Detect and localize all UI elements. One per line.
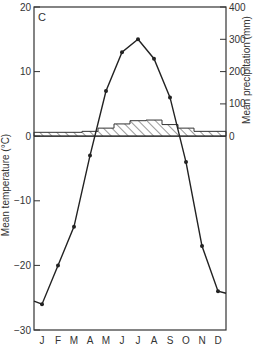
- left-axis-title: Mean temperature (°C): [0, 134, 11, 236]
- month-label: M: [102, 335, 110, 346]
- left-tick-label: 20: [20, 2, 32, 13]
- temperature-point: [120, 50, 124, 54]
- month-label: D: [214, 335, 221, 346]
- temperature-point: [88, 154, 92, 158]
- month-label: J: [40, 335, 45, 346]
- right-axis-title: Mean precipitation (mm): [241, 16, 252, 124]
- left-tick-label: −20: [14, 260, 31, 271]
- left-axis-ticks: 20100−10−20−30: [14, 2, 40, 336]
- month-label: J: [136, 335, 141, 346]
- temperature-point: [184, 160, 188, 164]
- left-tick-label: −30: [14, 325, 31, 336]
- temperature-point: [136, 37, 140, 41]
- month-label: M: [70, 335, 78, 346]
- temperature-point: [168, 95, 172, 99]
- temperature-line: [34, 39, 226, 304]
- climate-chart: 20100−10−20−30 4003002001000 JFMAMJJASON…: [0, 0, 256, 349]
- month-label: N: [198, 335, 205, 346]
- temperature-point: [152, 57, 156, 61]
- temperature-point: [216, 289, 220, 293]
- temperature-point: [40, 302, 44, 306]
- temperature-point: [200, 244, 204, 248]
- panel-label: C: [38, 11, 46, 23]
- temperature-point: [56, 263, 60, 267]
- month-label: J: [120, 335, 125, 346]
- month-labels: JFMAMJJASOND: [40, 335, 222, 346]
- left-tick-label: 0: [25, 131, 31, 142]
- month-label: F: [55, 335, 61, 346]
- month-label: A: [87, 335, 94, 346]
- left-tick-label: −10: [14, 195, 31, 206]
- month-label: S: [167, 335, 174, 346]
- plot-frame: [34, 7, 226, 330]
- precipitation-area: [34, 120, 226, 136]
- precipitation-bars: [34, 120, 226, 136]
- month-label: O: [182, 335, 190, 346]
- temperature-point: [72, 225, 76, 229]
- right-tick-label: 400: [229, 2, 246, 13]
- right-tick-label: 0: [229, 131, 235, 142]
- left-tick-label: 10: [20, 66, 32, 77]
- temperature-point: [104, 89, 108, 93]
- temperature-points: [40, 37, 220, 306]
- month-label: A: [151, 335, 158, 346]
